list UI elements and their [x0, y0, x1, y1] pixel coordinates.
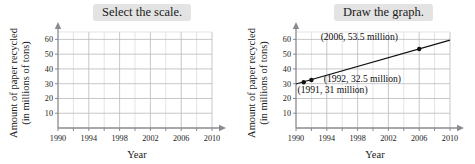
chart-select-the-scale: 102030405060199019941998200220062010Year… [0, 20, 237, 164]
y-axis-arrow-icon [55, 22, 61, 29]
data-point-marker [417, 47, 421, 51]
x-axis-arrow-icon [219, 125, 226, 131]
y-axis-ticks: 102030405060 [45, 35, 58, 118]
y-tick-label: 40 [45, 65, 53, 74]
y-tick-label: 60 [283, 35, 291, 44]
chart-draw-the-graph: 102030405060199019941998200220062010Year… [238, 20, 475, 164]
x-tick-label: 1990 [288, 134, 304, 143]
y-axis-title: Amount of paper recycled(in millions of … [246, 27, 270, 138]
banner-select-the-scale: Select the scale. [93, 4, 191, 21]
y-tick-label: 40 [283, 65, 291, 74]
data-point-marker [309, 78, 313, 82]
y-tick-label: 30 [45, 80, 53, 89]
x-tick-label: 1998 [111, 134, 127, 143]
x-axis-title: Year [127, 149, 147, 160]
y-axis-title-line2: (in millions of tons) [20, 41, 32, 125]
y-tick-label: 20 [45, 94, 53, 103]
x-axis-arrow-icon [457, 125, 464, 131]
point-annotation: (2006, 53.5 million) [321, 31, 398, 43]
axes [55, 22, 226, 131]
y-axis-arrow-icon [293, 22, 299, 29]
worksheet-figure: Select the scale. 1020304050601990199419… [0, 0, 475, 164]
banner-draw-the-graph: Draw the graph. [334, 4, 433, 21]
y-axis-title: Amount of paper recycled(in millions of … [8, 27, 32, 138]
y-axis-title-line1: Amount of paper recycled [8, 27, 19, 138]
y-axis-title-line2: (in millions of tons) [258, 41, 270, 125]
x-axis-ticks: 199019941998200220062010 [50, 128, 220, 143]
x-tick-label: 1994 [319, 134, 335, 143]
x-tick-label: 1994 [81, 134, 97, 143]
gridlines [58, 32, 212, 128]
y-axis-title-line1: Amount of paper recycled [246, 27, 257, 138]
y-axis-ticks: 102030405060 [283, 35, 296, 118]
x-axis-ticks: 199019941998200220062010 [288, 128, 458, 143]
y-tick-label: 50 [45, 50, 53, 59]
x-tick-label: 2002 [142, 134, 158, 143]
x-tick-label: 2010 [442, 134, 458, 143]
x-tick-label: 2006 [173, 134, 189, 143]
panel-select-the-scale: Select the scale. 1020304050601990199419… [0, 0, 237, 164]
x-tick-label: 2006 [411, 134, 427, 143]
y-tick-label: 50 [283, 50, 291, 59]
x-tick-label: 1990 [50, 134, 66, 143]
y-tick-label: 60 [45, 35, 53, 44]
y-tick-label: 20 [283, 94, 291, 103]
x-tick-label: 2002 [380, 134, 396, 143]
y-tick-label: 30 [283, 80, 291, 89]
x-axis-title: Year [365, 149, 385, 160]
x-tick-label: 2010 [204, 134, 220, 143]
x-tick-label: 1998 [349, 134, 365, 143]
y-tick-label: 10 [283, 109, 291, 118]
y-tick-label: 10 [45, 109, 53, 118]
point-annotation: (1991, 31 million) [298, 84, 368, 96]
panel-draw-the-graph: Draw the graph. 102030405060199019941998… [238, 0, 475, 164]
